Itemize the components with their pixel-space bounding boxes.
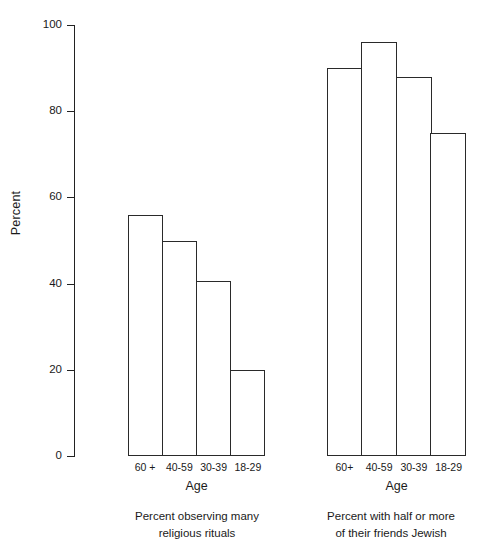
caption-line: Percent with half or more [297,508,485,525]
bar [128,215,163,456]
y-axis-tick-label: 20 [22,364,62,376]
x-axis-category-label: 60+ [327,461,362,473]
y-axis-tick [67,111,75,112]
x-axis-category-label: 40-59 [162,461,196,473]
y-axis-tick-label: 80 [22,105,62,117]
x-axis-category-label: 18-29 [431,461,466,473]
bar [361,42,397,456]
caption-line: religious rituals [104,525,290,542]
y-axis-tick [67,456,75,457]
caption-line: Percent observing many [104,508,290,525]
x-axis-category-label: 30-39 [397,461,432,473]
y-axis-tick-label: 60 [22,192,62,204]
x-axis-category-labels-left: 60 +40-5930-3918-29 [128,461,265,473]
bar-series-religious-rituals [128,25,265,456]
bar-series-friends-jewish [327,25,466,456]
x-axis-category-label: 40-59 [362,461,397,473]
y-axis-line [74,25,75,456]
bar [196,281,231,456]
y-axis-tick [67,370,75,371]
y-axis-tick [67,197,75,198]
panel-friends-jewish: 60+40-5930-3918-29 Age [327,0,466,556]
x-axis-category-label: 18-29 [231,461,265,473]
bar [230,370,265,456]
x-axis-title-right: Age [327,479,466,493]
x-axis-category-label: 30-39 [197,461,231,473]
caption-line: of their friends Jewish [297,525,485,542]
bar [396,77,432,456]
caption-religious-rituals: Percent observing many religious rituals [104,508,290,541]
bar [430,133,466,456]
panel-religious-rituals: 60 +40-5930-3918-29 Age [128,0,265,556]
y-axis-tick-label: 0 [22,450,62,462]
y-axis-tick-label: 40 [22,278,62,290]
caption-friends-jewish: Percent with half or more of their frien… [297,508,485,541]
y-axis-tick-label: 100 [22,19,62,31]
y-axis-tick [67,284,75,285]
bar-chart-figure: Percent 020406080100 60 +40-5930-3918-29… [0,0,485,556]
x-axis-category-label: 60 + [128,461,162,473]
bar [327,68,363,456]
x-axis-category-labels-right: 60+40-5930-3918-29 [327,461,466,473]
y-axis-tick [67,25,75,26]
y-axis-title: Percent [9,173,23,253]
x-axis-title-left: Age [128,479,265,493]
bar [162,241,197,457]
